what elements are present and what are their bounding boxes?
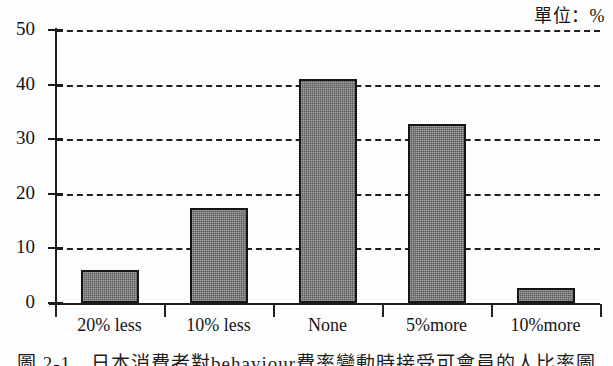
y-axis-tick (48, 193, 63, 195)
y-axis-tick-label: 50 (0, 19, 35, 38)
y-axis-tick (48, 138, 63, 140)
y-axis-tick-label: 20 (0, 183, 35, 202)
x-axis-label: None (308, 315, 347, 336)
x-axis-label: 5%more (406, 315, 467, 336)
plot-area: 01020304050 (55, 30, 600, 303)
y-axis-tick-label: 30 (0, 128, 35, 147)
x-axis-label: 20% less (77, 315, 142, 336)
bar (517, 288, 575, 303)
x-axis-label: 10% less (186, 315, 251, 336)
x-axis-tick (273, 304, 275, 317)
y-axis-line (55, 28, 57, 305)
gridline (57, 30, 600, 32)
x-axis-tick (55, 304, 57, 317)
x-axis-tick (382, 304, 384, 317)
x-axis-label: 10%more (511, 315, 581, 336)
x-axis-tick (600, 304, 602, 317)
bar (299, 79, 357, 303)
y-axis-tick-label: 40 (0, 74, 35, 93)
bar (190, 208, 248, 303)
x-axis-tick (164, 304, 166, 317)
unit-label: 單位：% (534, 1, 605, 27)
figure-caption: 圖 2-1 日本消費者對behaviour費率變動時接受可會員的人比率圖 (0, 348, 613, 366)
bar (408, 124, 466, 303)
y-axis-tick-label: 0 (0, 292, 35, 311)
x-axis-line (49, 303, 600, 305)
y-axis-tick (48, 84, 63, 86)
bar (81, 270, 139, 303)
chart-page: 單位：% 01020304050 20% less10% lessNone5%m… (0, 0, 613, 366)
y-axis-tick (48, 29, 63, 31)
y-axis-tick-label: 10 (0, 237, 35, 256)
y-axis-tick (48, 247, 63, 249)
x-axis-tick (491, 304, 493, 317)
